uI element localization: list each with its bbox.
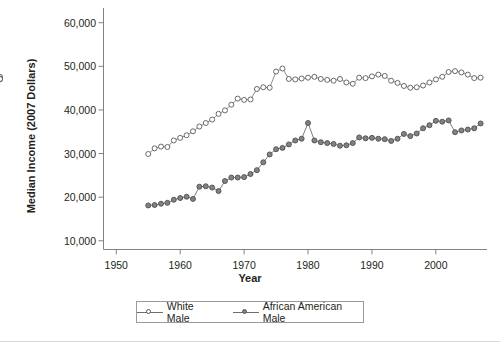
legend-marker-open-circle-icon [137,308,162,317]
data-point [159,201,164,206]
data-point [171,197,176,202]
data-point [421,83,426,88]
y-axis-tick-label: 30,000 [46,148,96,160]
data-point [350,81,355,86]
legend-item-african-american-male[interactable]: African American Male [233,300,363,324]
data-point [306,75,311,80]
data-point [299,136,304,141]
data-point [152,146,157,151]
x-axis-tick-label: 1970 [232,259,255,271]
data-point [312,138,317,143]
data-point [318,76,323,81]
data-point [197,124,202,129]
data-point [344,80,349,85]
data-point [433,118,438,123]
data-point [146,151,151,156]
data-point [363,76,368,81]
data-point [274,69,279,74]
legend-label-african-american-male: African American Male [263,300,363,324]
data-point [389,138,394,143]
y-axis-tick-label: 10,000 [46,235,96,247]
data-point [293,77,298,82]
data-point [210,185,215,190]
data-point [152,203,157,208]
data-point [433,77,438,82]
series-line [148,120,480,205]
data-point [395,136,400,141]
data-point [446,70,451,75]
data-point [267,152,272,157]
data-point [459,128,464,133]
data-point [382,73,387,78]
data-point [376,72,381,77]
data-point [325,77,330,82]
data-point [306,121,311,126]
data-point [376,136,381,141]
y-axis-tick-label: 20,000 [46,191,96,203]
data-point [408,134,413,139]
data-point [427,123,432,128]
bottom-divider [0,341,500,342]
data-point [440,74,445,79]
data-point [254,168,259,173]
data-point [178,135,183,140]
data-point [171,138,176,143]
data-point [216,111,221,116]
data-point [440,119,445,124]
data-point [453,130,458,135]
data-point [203,184,208,189]
data-point [286,76,291,81]
data-point [427,80,432,85]
data-point [216,189,221,194]
data-point [453,69,458,74]
y-axis-tick-label: 40,000 [46,104,96,116]
data-point [280,66,285,71]
data-point [459,70,464,75]
data-point [261,85,266,90]
data-point [357,135,362,140]
data-point [165,200,170,205]
y-axis-tick-label: 60,000 [46,17,96,29]
data-point [242,97,247,102]
data-point [267,85,272,90]
data-point [274,147,279,152]
data-point [337,76,342,81]
data-point [408,85,413,90]
data-point [337,143,342,148]
x-axis-tick-label: 1950 [105,259,128,271]
data-point [184,133,189,138]
data-point [210,117,215,122]
data-point [465,127,470,132]
data-point [414,131,419,136]
data-point [235,96,240,101]
data-point [350,141,355,146]
data-point [159,144,164,149]
legend-marker-filled-circle-icon [233,308,258,317]
data-point [0,76,3,81]
data-point [478,121,483,126]
legend-item-white-male[interactable]: White Male [137,300,217,324]
data-point [401,83,406,88]
x-axis-tick-label: 1960 [169,259,192,271]
data-point [331,141,336,146]
data-point [465,72,470,77]
data-point [178,196,183,201]
data-point [401,131,406,136]
data-point [478,75,483,80]
data-point [190,196,195,201]
data-point [421,126,426,131]
data-point [184,194,189,199]
data-point [165,145,170,150]
data-point [197,184,202,189]
data-point [369,74,374,79]
legend-label-white-male: White Male [167,300,217,324]
data-point [261,160,266,165]
data-point [242,175,247,180]
data-point [363,136,368,141]
data-point [312,74,317,79]
data-point [446,118,451,123]
data-point [146,203,151,208]
data-point [203,121,208,126]
data-point [235,175,240,180]
data-point [344,143,349,148]
